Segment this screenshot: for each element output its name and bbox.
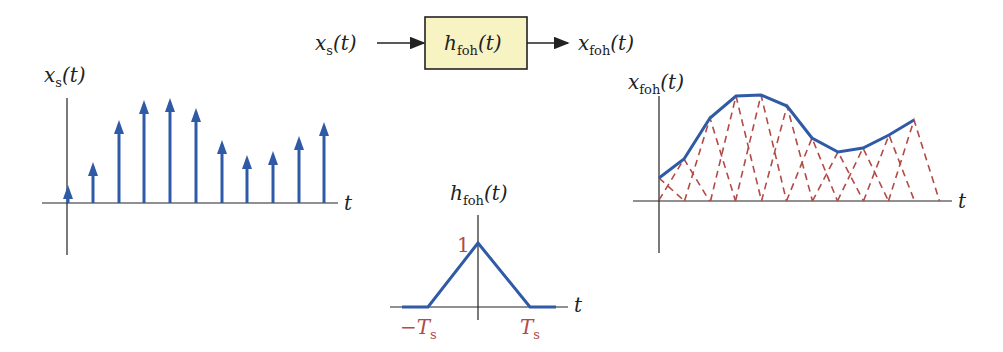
right-xlabel: t bbox=[958, 189, 967, 213]
triangle-pulse bbox=[402, 243, 556, 307]
center-ylabel: hfoh(t) bbox=[450, 181, 508, 208]
neg-ts-label: −Ts bbox=[400, 315, 437, 342]
diagram-canvas: xs(t) hfoh(t) xfoh(t) xs(t) t hfoh(t) 1 … bbox=[0, 0, 1003, 352]
foh-output-line bbox=[659, 95, 914, 178]
center-plot: hfoh(t) 1 t −Ts Ts bbox=[390, 181, 583, 342]
left-plot: xs(t) t bbox=[42, 63, 353, 255]
impulse-stems bbox=[63, 98, 329, 203]
left-ylabel: xs(t) bbox=[44, 63, 86, 90]
right-ylabel: xfoh(t) bbox=[628, 70, 684, 97]
right-plot: xfoh(t) t bbox=[628, 70, 967, 253]
output-label: xfoh(t) bbox=[578, 31, 634, 58]
left-xlabel: t bbox=[344, 191, 353, 215]
block-diagram: xs(t) hfoh(t) xfoh(t) bbox=[315, 17, 634, 69]
peak-label: 1 bbox=[457, 233, 470, 257]
input-label: xs(t) bbox=[315, 31, 357, 58]
triangle-components bbox=[659, 95, 940, 201]
pos-ts-label: Ts bbox=[520, 315, 540, 342]
center-xlabel: t bbox=[574, 293, 583, 317]
